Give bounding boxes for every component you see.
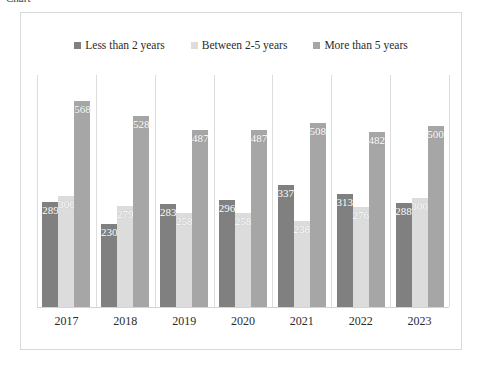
bar[interactable]: 296 bbox=[219, 200, 235, 307]
x-axis-tick-label: 2019 bbox=[155, 313, 214, 329]
bar-group: 296258487 bbox=[214, 75, 273, 307]
plot-inner: 2893065682302795282832584872962584873372… bbox=[37, 75, 449, 307]
bar-value-label: 296 bbox=[219, 202, 236, 214]
bar-value-label: 258 bbox=[176, 215, 193, 227]
bar-group-bars: 283258487 bbox=[155, 75, 214, 307]
bar-value-label: 289 bbox=[42, 204, 59, 216]
legend-item[interactable]: Between 2-5 years bbox=[191, 39, 288, 51]
bar-group-bars: 230279528 bbox=[96, 75, 155, 307]
bar[interactable]: 500 bbox=[428, 126, 444, 307]
bar-value-label: 568 bbox=[74, 103, 91, 115]
bar-value-label: 276 bbox=[352, 209, 369, 221]
bar[interactable]: 487 bbox=[251, 130, 267, 307]
legend-swatch-icon bbox=[191, 42, 198, 49]
bar[interactable]: 279 bbox=[117, 206, 133, 307]
bar-group: 283258487 bbox=[155, 75, 214, 307]
bar-value-label: 487 bbox=[251, 132, 268, 144]
bar[interactable]: 337 bbox=[278, 185, 294, 307]
x-axis-tick-label: 2022 bbox=[331, 313, 390, 329]
x-axis-tick-label: 2023 bbox=[390, 313, 449, 329]
bar-value-label: 487 bbox=[192, 132, 209, 144]
legend-item-label: Between 2-5 years bbox=[202, 39, 288, 51]
bar-group: 337238508 bbox=[272, 75, 331, 307]
bar[interactable]: 313 bbox=[337, 194, 353, 307]
bar-group: 313276482 bbox=[331, 75, 390, 307]
bar-group-bars: 296258487 bbox=[214, 75, 273, 307]
bar-group: 230279528 bbox=[96, 75, 155, 307]
legend-swatch-icon bbox=[74, 42, 81, 49]
category-separator bbox=[37, 75, 38, 307]
bar-value-label: 482 bbox=[368, 134, 385, 146]
chart-frame: Less than 2 yearsBetween 2-5 yearsMore t… bbox=[20, 12, 462, 350]
bar-value-label: 300 bbox=[411, 200, 428, 212]
bar-group: 289306568 bbox=[37, 75, 96, 307]
bar[interactable]: 230 bbox=[101, 224, 117, 307]
bar-value-label: 279 bbox=[117, 208, 134, 220]
bar-value-label: 313 bbox=[336, 196, 353, 208]
x-axis-line bbox=[37, 307, 449, 308]
legend-swatch-icon bbox=[313, 42, 320, 49]
cutoff-top-text: Chart bbox=[6, 0, 66, 4]
bar[interactable]: 289 bbox=[42, 202, 58, 307]
bar[interactable]: 300 bbox=[412, 198, 428, 307]
bar[interactable]: 568 bbox=[74, 101, 90, 307]
x-axis-tick-labels: 2017201820192020202120222023 bbox=[37, 313, 449, 333]
bar[interactable]: 508 bbox=[310, 123, 326, 307]
bar-value-label: 258 bbox=[235, 215, 252, 227]
bar[interactable]: 487 bbox=[192, 130, 208, 307]
x-axis-tick-label: 2021 bbox=[272, 313, 331, 329]
bar-value-label: 337 bbox=[278, 187, 295, 199]
bar-value-label: 500 bbox=[427, 128, 444, 140]
x-axis-tick-label: 2017 bbox=[37, 313, 96, 329]
x-axis-tick-label: 2020 bbox=[214, 313, 273, 329]
bar[interactable]: 238 bbox=[294, 221, 310, 307]
bar-value-label: 238 bbox=[294, 223, 311, 235]
plot-area: 2893065682302795282832584872962584873372… bbox=[37, 75, 449, 307]
bar[interactable]: 528 bbox=[133, 116, 149, 307]
bar-value-label: 230 bbox=[101, 226, 118, 238]
bar-value-label: 528 bbox=[133, 118, 150, 130]
bar-group-bars: 288300500 bbox=[390, 75, 449, 307]
category-separator bbox=[449, 75, 450, 307]
bar-value-label: 306 bbox=[58, 198, 75, 210]
chart-legend: Less than 2 yearsBetween 2-5 yearsMore t… bbox=[21, 39, 461, 51]
bar[interactable]: 258 bbox=[235, 213, 251, 307]
bar[interactable]: 276 bbox=[353, 207, 369, 307]
bar[interactable]: 306 bbox=[58, 196, 74, 307]
bar-group-bars: 289306568 bbox=[37, 75, 96, 307]
bar-group-bars: 313276482 bbox=[331, 75, 390, 307]
legend-item-label: Less than 2 years bbox=[85, 39, 165, 51]
bar-value-label: 288 bbox=[395, 205, 412, 217]
bar-group: 288300500 bbox=[390, 75, 449, 307]
bar-value-label: 508 bbox=[310, 125, 327, 137]
bar[interactable]: 482 bbox=[369, 132, 385, 307]
bar[interactable]: 283 bbox=[160, 204, 176, 307]
bar-value-label: 283 bbox=[160, 206, 177, 218]
legend-item[interactable]: More than 5 years bbox=[313, 39, 407, 51]
bar-group-bars: 337238508 bbox=[272, 75, 331, 307]
bar[interactable]: 258 bbox=[176, 213, 192, 307]
legend-item[interactable]: Less than 2 years bbox=[74, 39, 165, 51]
legend-item-label: More than 5 years bbox=[324, 39, 407, 51]
bar[interactable]: 288 bbox=[396, 203, 412, 307]
x-axis-tick-label: 2018 bbox=[96, 313, 155, 329]
